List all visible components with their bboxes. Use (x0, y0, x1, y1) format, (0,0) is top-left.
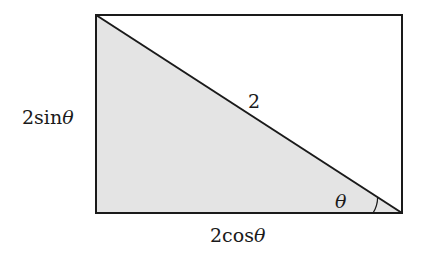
angle-label: θ (335, 190, 347, 212)
hypotenuse-label: 2 (248, 90, 260, 112)
left-side-label: 2sinθ (22, 106, 74, 128)
triangle-diagram: 2sinθ 2 θ 2cosθ (0, 0, 428, 255)
bottom-side-label: 2cosθ (210, 224, 266, 246)
